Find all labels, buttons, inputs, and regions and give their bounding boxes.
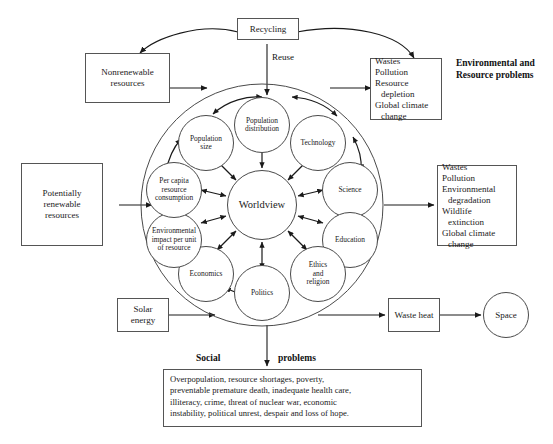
- social-word: Social: [196, 353, 220, 363]
- env-right-line-5: Wildlife: [442, 206, 512, 217]
- politics-label: Politics: [251, 289, 273, 297]
- box-nonrenewable-text: Nonrenewable resources: [86, 65, 169, 91]
- per-capita-line-3: consumption: [155, 193, 193, 202]
- space-label: Space: [495, 310, 517, 320]
- env-impact-line-3: of resource: [157, 243, 190, 252]
- social-problems-line-3: illiteracy, crime, threat of nuclear war…: [170, 397, 415, 408]
- nonrenewable-line-2: resources: [111, 78, 145, 88]
- wheel-node-per-capita-resource-consumption[interactable]: Per capita resource consumption: [146, 162, 202, 218]
- education-label: Education: [335, 236, 365, 244]
- pd-line-2: distribution: [245, 124, 279, 133]
- pot-ren-line-2: renewable: [44, 199, 81, 209]
- wheel-node-science[interactable]: Science: [322, 162, 378, 218]
- waste-heat-line-1: Waste: [394, 310, 416, 320]
- env-right-line-2: Pollution: [442, 173, 512, 184]
- wheel-node-worldview[interactable]: Worldview: [227, 170, 297, 240]
- box-nonrenewable-resources[interactable]: Nonrenewable resources: [85, 53, 170, 103]
- env-impact-text: Environmental impact per unit of resourc…: [152, 227, 197, 252]
- pot-ren-line-3: resources: [45, 210, 79, 220]
- reuse-text: Reuse: [272, 52, 294, 62]
- ethics-text: Ethics and religion: [307, 261, 330, 286]
- science-label: Science: [339, 186, 362, 194]
- env-right-line-3: Environmental: [442, 184, 512, 195]
- wheel-node-ethics-and-religion[interactable]: Ethics and religion: [290, 246, 346, 302]
- box-solar-energy[interactable]: Solar energy: [117, 298, 169, 332]
- solar-line-2: energy: [131, 315, 155, 325]
- social-problems-line-1: Overpopulation, resource shortages, pove…: [170, 374, 415, 385]
- waste-heat-text: Waste heat: [389, 308, 439, 323]
- box-waste-heat[interactable]: Waste heat: [388, 298, 440, 332]
- box-recycling[interactable]: Recycling: [237, 18, 299, 40]
- env-top-line-6: change: [375, 111, 437, 122]
- env-top-line-1: Wastes: [375, 56, 437, 67]
- env-top-line-5: Global climate: [375, 100, 437, 111]
- box-potentially-renewable-resources[interactable]: Potentially renewable resources: [21, 163, 103, 246]
- wheel-node-politics[interactable]: Politics: [234, 265, 290, 321]
- env-right-line-4: degradation: [442, 195, 512, 206]
- box-recycling-label: Recycling: [238, 22, 298, 37]
- social-problems-line-2: preventable premature death, inadequate …: [170, 385, 415, 396]
- env-top-line-3: Resource: [375, 78, 437, 89]
- heading-line-1: Environmental and: [456, 58, 535, 68]
- diagram-canvas: Recycling Nonrenewable resources Wastes …: [0, 0, 553, 444]
- worldview-label: Worldview: [239, 199, 285, 211]
- box-environmental-resource-problems-top[interactable]: Wastes Pollution Resource depletion Glob…: [370, 58, 442, 120]
- social-problems-line-4: instability, political unrest, despair a…: [170, 408, 415, 419]
- ps-line-2: size: [200, 142, 212, 151]
- waste-heat-line-2: heat: [419, 310, 434, 320]
- box-environmental-resource-problems-right[interactable]: Wastes Pollution Environmental degradati…: [437, 165, 517, 246]
- wheel-node-population-size[interactable]: Population size: [178, 115, 234, 171]
- wheel-node-population-distribution[interactable]: Population distribution: [234, 97, 290, 153]
- heading-environmental-and-resource-problems: Environmental and Resource problems: [456, 57, 552, 81]
- env-top-text: Wastes Pollution Resource depletion Glob…: [371, 54, 441, 124]
- env-right-line-7: Global climate: [442, 228, 512, 239]
- population-size-text: Population size: [190, 135, 222, 152]
- label-social-problems-right: problems: [278, 353, 316, 363]
- solar-line-1: Solar: [134, 304, 153, 314]
- env-right-line-1: Wastes: [442, 162, 512, 173]
- technology-label: Technology: [301, 139, 336, 147]
- wheel-node-environmental-impact-per-unit-of-resource[interactable]: Environmental impact per unit of resourc…: [146, 212, 202, 268]
- env-right-line-8: change: [442, 239, 512, 250]
- pot-ren-line-1: Potentially: [43, 188, 82, 198]
- problems-word: problems: [278, 353, 316, 363]
- env-top-line-2: Pollution: [375, 67, 437, 78]
- heading-line-2: Resource problems: [456, 70, 534, 80]
- env-top-line-4: depletion: [375, 89, 437, 100]
- wheel-node-technology[interactable]: Technology: [290, 115, 346, 171]
- per-capita-text: Per capita resource consumption: [155, 177, 193, 202]
- env-right-text: Wastes Pollution Environmental degradati…: [438, 160, 516, 252]
- circle-space[interactable]: Space: [483, 292, 529, 338]
- label-social-problems-left: Social: [196, 353, 220, 363]
- arrow-label-reuse: Reuse: [272, 52, 294, 63]
- economics-label: Economics: [190, 270, 223, 278]
- population-distribution-text: Population distribution: [245, 117, 279, 134]
- box-social-problems-list[interactable]: Overpopulation, resource shortages, pove…: [163, 369, 422, 427]
- potentially-renewable-text: Potentially renewable resources: [22, 186, 102, 223]
- env-right-line-6: extinction: [442, 217, 512, 228]
- nonrenewable-line-1: Nonrenewable: [101, 67, 153, 77]
- ethics-line-3: religion: [307, 277, 330, 286]
- solar-energy-text: Solar energy: [118, 302, 168, 328]
